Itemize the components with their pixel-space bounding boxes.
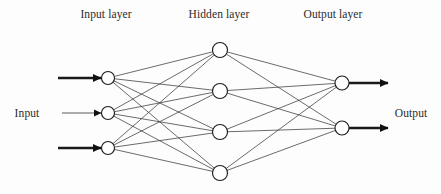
output-label: Output	[395, 107, 428, 120]
connection-edge	[114, 52, 212, 77]
connection-edge	[114, 81, 213, 129]
connection-edge	[114, 54, 214, 110]
neuron-node	[213, 43, 228, 58]
network-graphic	[0, 0, 441, 194]
neuron-node	[213, 125, 228, 140]
neuron-node	[102, 107, 115, 120]
neuron-node	[335, 76, 349, 90]
connection-edge	[114, 133, 212, 147]
connection-edge	[114, 116, 214, 169]
neural-network-diagram: Input layer Hidden layer Output layer In…	[0, 0, 441, 194]
connection-edge	[228, 128, 336, 132]
hidden-layer-title: Hidden layer	[189, 8, 250, 21]
neuron-nodes	[102, 43, 350, 181]
input-layer-title: Input layer	[80, 8, 131, 21]
neuron-node	[102, 72, 115, 85]
neuron-node	[102, 142, 115, 155]
neuron-node	[213, 84, 228, 99]
connection-edge	[227, 130, 335, 170]
connection-edge	[227, 52, 335, 81]
connection-edge	[114, 149, 212, 171]
connection-edges	[113, 52, 336, 172]
connection-edge	[227, 93, 335, 126]
output-layer-title: Output layer	[303, 8, 362, 21]
connection-edge	[114, 114, 212, 131]
figure-caption-fragment	[8, 186, 238, 194]
connection-edge	[113, 55, 214, 144]
neuron-node	[213, 166, 228, 181]
connection-edge	[227, 86, 336, 130]
neuron-node	[335, 121, 349, 135]
connection-edge	[226, 87, 336, 168]
input-label: Input	[15, 107, 40, 120]
